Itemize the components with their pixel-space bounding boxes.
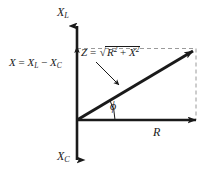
impedance-plus: + — [117, 46, 129, 58]
reactance-minus: − — [38, 56, 50, 68]
axis-label-r: R — [153, 126, 160, 138]
phi-angle-label: ϕ — [110, 100, 116, 112]
reactance-term2: X — [50, 56, 57, 68]
reactance-lhs: X — [9, 56, 16, 68]
impedance-formula-leader-line — [96, 62, 119, 85]
impedance-equals: = — [87, 46, 99, 58]
reactance-term2-subscript: C — [57, 61, 62, 70]
axis-label-xl-subscript: L — [64, 11, 69, 20]
axis-label-xc-subscript: C — [64, 155, 69, 164]
phasor-diagram-canvas — [0, 0, 209, 174]
axis-label-xc: XC — [57, 150, 70, 164]
axis-label-xl: XL — [57, 6, 69, 20]
impedance-formula-label: Z = √R2 + X2 — [81, 46, 140, 58]
impedance-vector-line — [77, 51, 193, 120]
impedance-phasor-figure: XL XC R ϕ X = XL − XC Z = √R2 + X2 — [0, 0, 209, 174]
impedance-radicand: R2 + X2 — [105, 46, 140, 58]
impedance-x-exponent: 2 — [136, 46, 140, 54]
impedance-radical-group: √R2 + X2 — [99, 46, 140, 58]
impedance-vector — [77, 51, 193, 120]
reactance-equals: = — [16, 56, 28, 68]
impedance-x-base: X — [129, 46, 136, 58]
impedance-r-base: R — [107, 46, 114, 58]
impedance-formula-leader — [96, 62, 119, 85]
reactance-definition-label: X = XL − XC — [9, 57, 62, 70]
